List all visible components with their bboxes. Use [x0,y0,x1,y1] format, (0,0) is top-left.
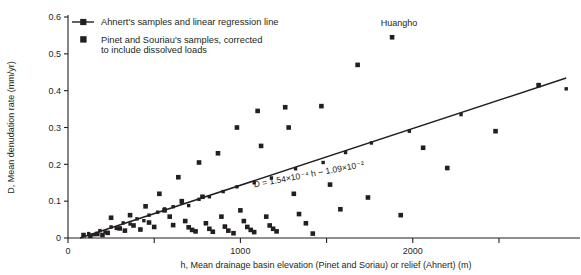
data-point-pinet [292,192,297,197]
data-point-pinet [204,221,209,226]
y-axis-tick-label: 0.6 [48,12,61,22]
data-point-pinet [81,233,86,238]
y-axis-tick-label: 0.2 [48,160,61,170]
legend-label-ahnert: Ahnert's samples and linear regression l… [101,17,278,27]
data-point-pinet [176,175,181,180]
data-point-pinet [138,227,143,232]
data-point-pinet [100,233,105,238]
data-point-ahnert [121,221,124,224]
data-point-pinet [355,63,360,68]
data-point-pinet [147,220,152,225]
data-point-ahnert [408,129,411,132]
data-point-pinet [183,219,188,224]
data-point-pinet [123,228,128,233]
y-axis-tick-label: 0.4 [48,86,61,96]
data-point-pinet [274,229,279,234]
data-point-pinet [286,125,291,130]
data-point-pinet [171,223,176,228]
data-point-pinet [255,109,260,114]
huangho-label: Huangho [381,18,418,28]
data-point-pinet [131,223,136,228]
data-point-pinet [223,224,228,229]
data-point-pinet [259,144,264,149]
y-axis-tick-label: 0.3 [48,123,61,133]
x-axis-tick-label: 0 [65,246,70,256]
data-point-pinet [398,213,403,218]
data-point-pinet [310,231,315,236]
data-point-pinet [197,160,202,165]
y-axis-title: D, Mean denudation rate (mm/yr) [6,61,16,194]
data-point-pinet [88,233,93,238]
data-point-pinet [493,129,498,134]
data-point-ahnert [370,141,373,144]
x-axis-tick-label: 1000 [230,246,250,256]
chart-canvas: 00.10.20.30.40.50.6010002000h, Mean drai… [0,0,581,275]
legend-marker-ahnert [80,19,86,25]
data-point-ahnert [187,204,190,207]
data-point-ahnert [344,151,347,154]
data-point-pinet [219,214,224,219]
data-point-pinet [109,215,114,220]
data-point-pinet [152,225,157,230]
data-point-pinet [536,83,541,88]
y-axis-tick-label: 0 [56,233,61,243]
data-point-pinet [162,208,167,213]
data-point-pinet [304,221,309,226]
data-point-ahnert [147,213,150,216]
data-point-ahnert [459,113,462,116]
data-point-pinet [242,219,247,224]
data-point-pinet [445,166,450,171]
data-point-pinet [264,214,269,219]
data-point-ahnert [321,161,324,164]
data-point-pinet [297,212,302,217]
data-point-ahnert [294,167,297,170]
data-point-pinet [252,230,257,235]
data-point-pinet [117,226,122,231]
regression-line [80,78,566,238]
data-point-pinet [328,182,333,187]
data-point-pinet [235,125,240,130]
data-point-pinet [179,199,184,204]
data-point-ahnert [142,219,145,222]
x-axis-title: h, Mean drainage basin elevation (Pinet … [180,260,471,270]
y-axis-tick-label: 0.5 [48,49,61,59]
data-point-ahnert [109,225,112,228]
data-point-pinet [421,145,426,150]
data-point-pinet [338,207,343,212]
denudation-rate-scatter-chart: 00.10.20.30.40.50.6010002000h, Mean drai… [0,0,581,275]
data-point-pinet [105,231,110,236]
regression-equation: D = 1.54×10⁻⁴ h − 1.09×10⁻² [253,159,365,189]
data-point-pinet [211,229,216,234]
data-point-ahnert [135,217,138,220]
legend-label-pinet-line1: Pinet and Souriau's samples, corrected [101,35,262,45]
data-point-pinet [167,214,172,219]
data-point-ahnert [235,185,238,188]
data-point-pinet [319,104,324,109]
data-point-ahnert [221,190,224,193]
data-point-pinet [95,232,100,237]
y-axis-tick-label: 0.1 [48,196,61,206]
data-point-pinet [231,231,236,236]
data-point-pinet [238,208,243,213]
data-point-pinet [193,229,198,234]
data-point-pinet [143,204,148,209]
data-point-pinet [283,105,288,110]
data-point-pinet [200,194,205,199]
legend-marker-pinet [80,36,86,42]
x-axis-tick-label: 2000 [403,246,423,256]
data-point-pinet [216,151,221,156]
data-point-ahnert [208,195,211,198]
data-point-ahnert [565,87,568,90]
data-point-pinet [366,195,371,200]
data-point-pinet [226,228,231,233]
data-point-pinet [128,213,133,218]
data-point-pinet [157,192,162,197]
legend-label-pinet-line2: to include dissolved loads [101,45,207,55]
data-point-ahnert [171,205,174,208]
data-point-pinet [390,35,395,40]
data-point-ahnert [156,211,159,214]
